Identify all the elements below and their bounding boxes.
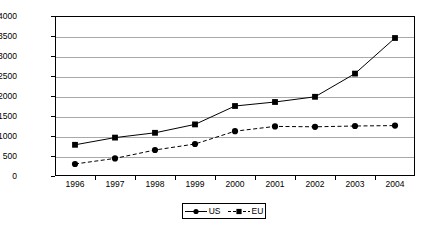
x-tick-mark xyxy=(95,176,96,180)
x-tick-mark xyxy=(295,176,296,180)
legend-entry-us: US xyxy=(185,207,221,216)
y-tick-mark xyxy=(51,176,55,177)
x-tick-mark xyxy=(135,176,136,180)
x-tick-label: 1998 xyxy=(133,180,177,189)
gridline xyxy=(56,157,414,158)
x-tick-label: 2001 xyxy=(253,180,297,189)
y-tick-label: 1000 xyxy=(0,132,17,140)
legend-label-us: US xyxy=(209,207,221,216)
y-tick-label: 2500 xyxy=(0,72,17,80)
y-tick-label: 4000 xyxy=(0,12,17,20)
legend-swatch-us-circle-marker xyxy=(185,207,207,216)
gridline xyxy=(56,37,414,38)
y-tick-label: 500 xyxy=(0,152,17,160)
x-tick-label: 1999 xyxy=(173,180,217,189)
x-tick-mark xyxy=(175,176,176,180)
x-tick-label: 2002 xyxy=(293,180,337,189)
y-tick-label: 2000 xyxy=(0,92,17,100)
y-tick-label: 3500 xyxy=(0,32,17,40)
x-tick-mark xyxy=(375,176,376,180)
y-tick-label: 1500 xyxy=(0,112,17,120)
chart-figure: $ Millions 05001000150020002500300035004… xyxy=(0,0,436,232)
y-tick-label: 0 xyxy=(0,172,17,180)
x-tick-label: 2003 xyxy=(333,180,377,189)
legend-swatch-eu-square-marker xyxy=(228,207,250,216)
gridline xyxy=(56,97,414,98)
gridline xyxy=(56,77,414,78)
legend-entry-eu: EU xyxy=(228,207,264,216)
x-tick-label: 2000 xyxy=(213,180,257,189)
x-tick-label: 1997 xyxy=(93,180,137,189)
plot-area xyxy=(55,16,415,176)
x-tick-mark xyxy=(215,176,216,180)
chart-legend: US EU xyxy=(182,203,266,219)
x-tick-label: 2004 xyxy=(373,180,417,189)
gridline xyxy=(56,117,414,118)
legend-label-eu: EU xyxy=(252,207,264,216)
x-tick-mark xyxy=(335,176,336,180)
gridline xyxy=(56,57,414,58)
x-tick-label: 1996 xyxy=(53,180,97,189)
gridline xyxy=(56,137,414,138)
y-tick-label: 3000 xyxy=(0,52,17,60)
x-tick-mark xyxy=(255,176,256,180)
